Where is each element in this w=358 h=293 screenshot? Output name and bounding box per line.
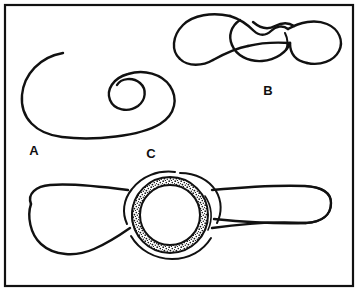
panel-c-shape <box>29 172 331 259</box>
panel-b-shape <box>174 14 341 64</box>
tube-b-lower-connector <box>248 43 290 46</box>
panel-label-b: B <box>263 83 273 98</box>
tube-b-belly-lower <box>232 43 290 61</box>
tube-c-lower-left <box>29 204 130 254</box>
tube-c-upper-left <box>30 184 128 204</box>
tube-b-belly-left <box>230 20 240 45</box>
tube-b-cut-edge <box>285 33 287 50</box>
tube-c-lower-right <box>212 222 306 228</box>
ring-inner-circle <box>140 185 200 245</box>
spiral-oval-outline <box>22 53 175 138</box>
tube-b-left-upper <box>174 14 230 64</box>
figure-illustration: A B <box>0 0 358 293</box>
tube-c-upper-right <box>212 186 331 224</box>
panel-label-a: A <box>29 143 39 158</box>
panel-a-shape <box>22 53 175 138</box>
ring-outer-circle <box>132 177 208 253</box>
panel-label-c: C <box>146 146 156 161</box>
tube-b-saddle-overlap <box>253 22 294 28</box>
tube-b-right-lower <box>290 43 307 63</box>
figure-container: A B <box>0 0 358 293</box>
